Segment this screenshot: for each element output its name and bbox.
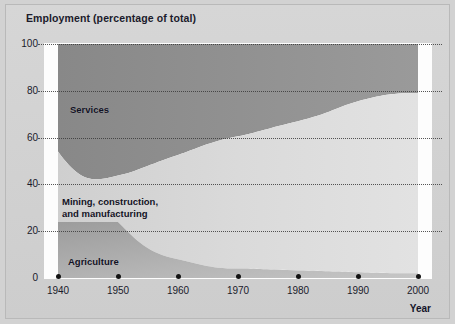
gridline-20 [38,231,442,232]
y-tick-60: 60 [8,132,38,143]
x-tick-1970: 1970 [215,285,261,296]
series-label-agriculture: Agriculture [68,256,119,268]
x-dot-2000 [416,274,421,279]
y-tick-0: 0 [8,272,38,283]
y-tick-100: 100 [8,38,38,49]
y-tick-40: 40 [8,178,38,189]
x-dot-1950 [116,274,121,279]
stacked-area-svg [58,44,418,278]
figure-container: Employment (percentage of total) [0,0,455,324]
x-tick-1950: 1950 [95,285,141,296]
chart-title: Employment (percentage of total) [26,12,196,24]
y-tick-80: 80 [8,85,38,96]
gridline-40 [38,184,442,185]
series-label-mining: Mining, construction, and manufacturing [62,196,158,219]
x-dot-1940 [56,274,61,279]
x-dot-1990 [356,274,361,279]
x-tick-1940: 1940 [35,285,81,296]
x-tick-2000: 2000 [395,285,441,296]
plot-area [58,44,418,278]
x-tick-1960: 1960 [155,285,201,296]
x-axis-title: Year [410,303,431,314]
y-tick-20: 20 [8,225,38,236]
x-tick-1990: 1990 [335,285,381,296]
gridline-100 [38,44,442,45]
gridline-60 [38,138,442,139]
series-label-services: Services [70,104,109,116]
gridline-80 [38,91,442,92]
x-dot-1970 [236,274,241,279]
x-dot-1980 [296,274,301,279]
x-tick-1980: 1980 [275,285,321,296]
x-dot-1960 [176,274,181,279]
